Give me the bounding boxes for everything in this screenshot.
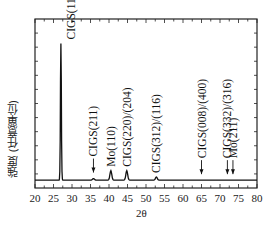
svg-text:25: 25 [48,192,60,204]
svg-text:CIGS(008)/(400): CIGS(008)/(400) [196,79,209,158]
x-axis-label: 2θ [136,207,147,219]
svg-text:50: 50 [141,192,153,204]
svg-text:35: 35 [85,192,97,204]
svg-text:45: 45 [122,192,134,204]
svg-text:CIGS(112): CIGS(112) [65,0,78,39]
svg-text:CIGS(211): CIGS(211) [87,106,100,157]
svg-text:65: 65 [196,192,208,204]
svg-text:Mo(211): Mo(211) [227,118,240,159]
svg-text:30: 30 [67,192,79,204]
svg-text:75: 75 [233,192,245,204]
svg-text:Mo(110): Mo(110) [105,126,118,167]
svg-text:40: 40 [104,192,116,204]
svg-text:80: 80 [252,192,264,204]
svg-text:55: 55 [159,192,171,204]
svg-text:70: 70 [215,192,227,204]
svg-text:60: 60 [178,192,190,204]
svg-text:20: 20 [30,192,42,204]
svg-text:CIGS(220)/(204): CIGS(220)/(204) [121,87,134,166]
peak-annotations: CIGS(112)CIGS(211)Mo(110)CIGS(220)/(204)… [65,0,240,174]
svg-text:CIGS(312)/(116): CIGS(312)/(116) [150,94,163,173]
xrd-chart: 20253035404550556065707580 CIGS(112)CIGS… [0,0,280,233]
y-axis-label: 強度 (任意單位) [6,100,20,178]
x-tick-labels: 20253035404550556065707580 [30,192,264,204]
